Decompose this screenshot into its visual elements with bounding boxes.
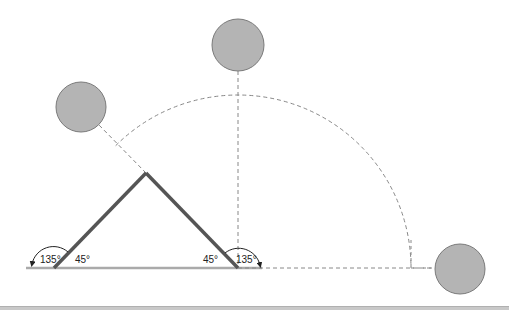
ball-90-position [212,19,264,71]
diagonal-dashed-line [99,125,146,173]
left-obtuse-angle-label: 135° [40,254,61,265]
left-rod [54,173,146,268]
right-obtuse-angle-label: 135° [236,254,257,265]
left-acute-angle-label: 45° [75,254,90,265]
right-rod [146,173,238,268]
right-acute-angle-label: 45° [203,254,218,265]
angle-diagram: 135° 45° 45° 135° [0,0,509,310]
ball-135-position [56,82,106,132]
bottom-border [0,306,509,310]
ball-0-position [435,244,485,294]
swing-arc-dashed [116,95,411,268]
